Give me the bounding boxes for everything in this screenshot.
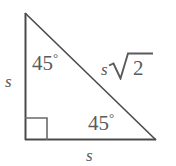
angle-label-top-left: 45° [32,51,58,74]
side-label-bottom-leg: s [86,147,93,164]
side-label-left-leg: s [5,73,12,90]
radicand-value: 2 [133,56,144,80]
side-label-hypotenuse: s 2 [101,50,154,80]
right-angle-square-icon [25,118,47,140]
square-root-icon: 2 [108,50,154,80]
degree-symbol-icon: ° [53,50,58,65]
angle-bottom-right-value: 45 [88,111,109,135]
hypotenuse-coefficient: s [101,61,108,78]
triangle-drawing [0,0,176,166]
angle-label-bottom-right: 45° [88,111,114,134]
angle-top-left-value: 45 [32,51,53,75]
degree-symbol-icon: ° [109,110,114,125]
geometry-figure-canvas: 45° 45° s s s 2 [0,0,176,166]
